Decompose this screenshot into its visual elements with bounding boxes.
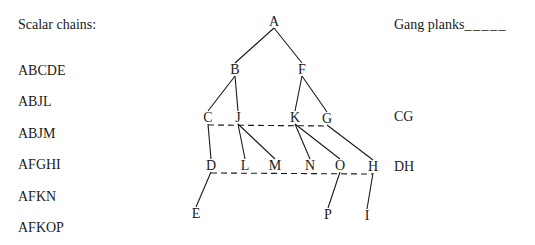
edge-CD bbox=[208, 124, 211, 159]
edge-AB bbox=[235, 28, 274, 63]
node-P: P bbox=[324, 207, 332, 222]
node-H: H bbox=[368, 159, 378, 174]
edge-FG bbox=[302, 76, 327, 112]
edge-BJ bbox=[235, 76, 238, 111]
node-N: N bbox=[305, 158, 315, 173]
node-O: O bbox=[335, 158, 345, 173]
gang-plank-CG bbox=[208, 125, 327, 126]
hierarchy-diagram: ABFCJKGDLMNOHEPI bbox=[0, 0, 535, 245]
node-K: K bbox=[290, 110, 300, 125]
node-M: M bbox=[269, 158, 282, 173]
edge-AF bbox=[274, 28, 302, 63]
edge-FK bbox=[295, 76, 302, 111]
node-J: J bbox=[235, 110, 241, 125]
edge-HI bbox=[367, 173, 373, 209]
node-A: A bbox=[269, 14, 280, 29]
node-B: B bbox=[230, 62, 239, 77]
node-E: E bbox=[192, 206, 201, 221]
edge-BC bbox=[208, 76, 235, 111]
node-I: I bbox=[365, 208, 370, 223]
node-G: G bbox=[322, 111, 332, 126]
node-L: L bbox=[241, 158, 250, 173]
node-D: D bbox=[206, 158, 216, 173]
edge-OP bbox=[328, 172, 340, 208]
node-C: C bbox=[203, 110, 212, 125]
edge-DE bbox=[196, 172, 211, 207]
node-F: F bbox=[298, 62, 306, 77]
gang-plank-DH bbox=[211, 173, 373, 174]
